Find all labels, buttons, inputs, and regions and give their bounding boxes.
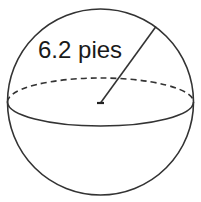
equator-back-dashed bbox=[8, 78, 194, 102]
equator-front-solid bbox=[8, 102, 194, 126]
radius-label: 6.2 pies bbox=[38, 38, 122, 62]
sphere-figure bbox=[0, 0, 201, 202]
sphere-diagram: 6.2 pies bbox=[0, 0, 201, 202]
